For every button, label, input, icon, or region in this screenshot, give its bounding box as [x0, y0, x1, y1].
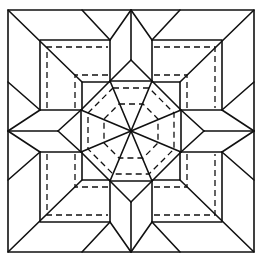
diagram-root: Quilt block pattern: octagonal star with… — [0, 0, 264, 260]
quilt-block-diagram — [0, 0, 264, 260]
arrow-bottom — [82, 181, 180, 252]
arrow-left — [8, 82, 81, 180]
arrow-right — [181, 82, 254, 180]
arrow-top — [82, 10, 180, 81]
